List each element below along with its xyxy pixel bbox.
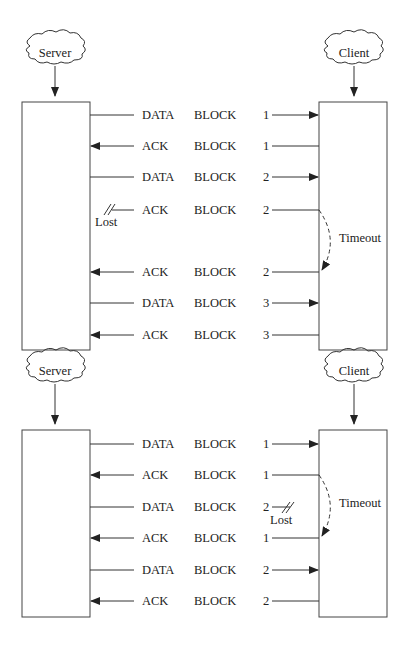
tftp-sequence-diagram: Server Client DATA BLOCK 1 ACK BLOCK 1 (0, 0, 407, 650)
svg-text:BLOCK: BLOCK (194, 328, 236, 342)
message-row: DATA BLOCK 1 (90, 108, 318, 122)
message-row: ACK BLOCK 2 (91, 265, 319, 279)
svg-text:2: 2 (263, 500, 269, 514)
svg-text:ACK: ACK (142, 265, 168, 279)
svg-text:2: 2 (263, 265, 269, 279)
svg-text:ACK: ACK (142, 328, 168, 342)
message-row-lost: DATA BLOCK 2 Lost (90, 500, 294, 527)
svg-text:DATA: DATA (142, 563, 174, 577)
svg-text:3: 3 (263, 296, 269, 310)
svg-text:ACK: ACK (142, 531, 168, 545)
message-row: ACK BLOCK 1 (91, 139, 319, 153)
svg-text:1: 1 (263, 108, 269, 122)
svg-text:ACK: ACK (142, 139, 168, 153)
message-row: DATA BLOCK 1 (90, 437, 318, 451)
server-cloud-icon: Server (26, 348, 85, 382)
client-label: Client (339, 46, 370, 60)
svg-text:BLOCK: BLOCK (194, 563, 236, 577)
lost-label: Lost (95, 215, 118, 229)
svg-text:DATA: DATA (142, 437, 174, 451)
server-box (22, 102, 90, 350)
svg-text:1: 1 (263, 139, 269, 153)
svg-text:DATA: DATA (142, 108, 174, 122)
message-row: ACK BLOCK 1 (91, 468, 319, 482)
svg-text:ACK: ACK (142, 594, 168, 608)
svg-text:BLOCK: BLOCK (194, 437, 236, 451)
client-box (319, 430, 387, 617)
svg-text:DATA: DATA (142, 500, 174, 514)
svg-text:BLOCK: BLOCK (194, 296, 236, 310)
svg-text:2: 2 (263, 170, 269, 184)
svg-text:BLOCK: BLOCK (194, 108, 236, 122)
message-row: ACK BLOCK 2 (91, 594, 319, 608)
message-row: DATA BLOCK 2 (90, 170, 318, 184)
message-row: ACK BLOCK 3 (91, 328, 319, 342)
svg-text:1: 1 (263, 531, 269, 545)
timeout-label: Timeout (339, 231, 381, 245)
svg-text:BLOCK: BLOCK (194, 139, 236, 153)
svg-text:2: 2 (263, 594, 269, 608)
svg-text:BLOCK: BLOCK (194, 468, 236, 482)
client-cloud-icon: Client (324, 348, 383, 382)
svg-text:ACK: ACK (142, 468, 168, 482)
server-cloud-icon: Server (26, 30, 85, 64)
section-top: Server Client DATA BLOCK 1 ACK BLOCK 1 (22, 30, 387, 350)
svg-text:1: 1 (263, 468, 269, 482)
server-label: Server (39, 364, 72, 378)
svg-text:2: 2 (263, 563, 269, 577)
svg-text:BLOCK: BLOCK (194, 170, 236, 184)
message-row: DATA BLOCK 2 (90, 563, 318, 577)
client-cloud-icon: Client (324, 30, 383, 64)
svg-text:BLOCK: BLOCK (194, 594, 236, 608)
svg-text:DATA: DATA (142, 170, 174, 184)
section-bottom: Server Client DATA BLOCK 1 ACK BLOCK 1 (22, 348, 387, 617)
svg-text:2: 2 (263, 203, 269, 217)
client-box (319, 102, 387, 350)
svg-text:DATA: DATA (142, 296, 174, 310)
svg-text:ACK: ACK (142, 203, 168, 217)
svg-text:BLOCK: BLOCK (194, 500, 236, 514)
svg-text:1: 1 (263, 437, 269, 451)
svg-text:BLOCK: BLOCK (194, 203, 236, 217)
client-label: Client (339, 364, 370, 378)
message-row-lost: Lost ACK BLOCK 2 (95, 203, 319, 229)
server-box (22, 430, 90, 617)
timeout-label: Timeout (339, 496, 381, 510)
lost-label: Lost (270, 513, 293, 527)
message-row: DATA BLOCK 3 (90, 296, 318, 310)
svg-text:BLOCK: BLOCK (194, 531, 236, 545)
svg-text:BLOCK: BLOCK (194, 265, 236, 279)
svg-text:3: 3 (263, 328, 269, 342)
message-row: ACK BLOCK 1 (91, 531, 319, 545)
server-label: Server (39, 46, 72, 60)
